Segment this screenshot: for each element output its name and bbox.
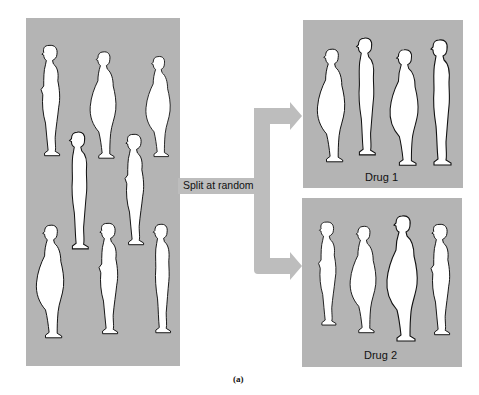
person-figure [382,214,422,344]
drug-1-group-panel: Drug 1 [303,20,463,188]
person-figure [425,38,455,168]
person-figure [424,216,454,344]
drug-2-label: Drug 2 [364,349,397,361]
split-at-random-label: Split at random [183,179,254,191]
person-figure [313,44,349,168]
drug-2-group-panel: Drug 2 [302,198,462,367]
person-figure [312,204,340,344]
drug-1-label: Drug 1 [365,171,398,183]
source-group-panel [26,18,180,366]
person-figure [148,210,174,348]
person-figure [346,216,380,344]
person-figure [385,48,423,168]
person-figure [92,210,122,348]
person-figure [34,36,64,166]
person-figure [32,218,68,346]
person-figure [351,26,379,168]
figure-caption: (a) [233,374,244,384]
person-figure [118,128,148,252]
person-figure [64,126,92,256]
